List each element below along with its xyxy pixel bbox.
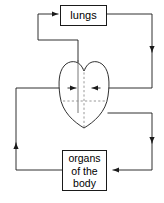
organs-label-line-2: of the (71, 165, 97, 177)
circulation-diagram: lungs organs of the body (0, 0, 164, 203)
node-organs: organs of the body (62, 150, 107, 191)
node-lungs: lungs (60, 5, 107, 26)
flow-heart-to-organs (113, 139, 152, 170)
organs-label-line-1: organs (68, 152, 100, 164)
organs-label-line-3: body (73, 177, 96, 189)
flow-organs-up-left (16, 143, 62, 170)
lungs-label: lungs (70, 9, 96, 22)
flow-heart-down-right (108, 113, 152, 143)
flow-lungs-down-right (107, 14, 152, 52)
